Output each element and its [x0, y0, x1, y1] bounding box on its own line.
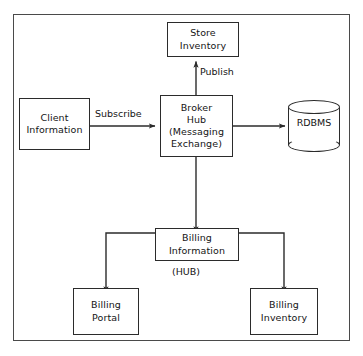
- diagram-canvas: Store Inventory Client Information Broke…: [0, 0, 363, 356]
- node-broker-hub[interactable]: Broker Hub (Messaging Exchange): [160, 95, 233, 157]
- node-billing-information[interactable]: Billing Information: [155, 228, 239, 261]
- node-rdbms-label: RDBMS: [288, 117, 340, 129]
- node-store-inventory-label: Store Inventory: [180, 27, 226, 51]
- edge-label-publish: Publish: [200, 66, 234, 78]
- node-billing-inventory[interactable]: Billing Inventory: [250, 288, 318, 335]
- node-store-inventory[interactable]: Store Inventory: [167, 22, 239, 57]
- node-client-information[interactable]: Client Information: [19, 98, 90, 150]
- annotation-hub: (HUB): [172, 266, 200, 278]
- node-billing-inventory-label: Billing Inventory: [261, 299, 307, 323]
- node-billing-portal[interactable]: Billing Portal: [73, 288, 139, 335]
- edge-billing-information-to-billing-inventory: [239, 233, 284, 293]
- cylinder-top-ellipse: [288, 100, 340, 114]
- node-billing-portal-label: Billing Portal: [91, 299, 121, 323]
- node-billing-information-label: Billing Information: [169, 232, 225, 256]
- node-rdbms-database-cylinder[interactable]: RDBMS: [288, 100, 340, 152]
- edge-label-subscribe: Subscribe: [95, 108, 142, 120]
- node-broker-hub-label: Broker Hub (Messaging Exchange): [169, 102, 224, 151]
- edge-billing-information-to-billing-portal: [106, 233, 155, 293]
- node-client-information-label: Client Information: [26, 112, 82, 136]
- cylinder-bottom-ellipse: [288, 138, 340, 152]
